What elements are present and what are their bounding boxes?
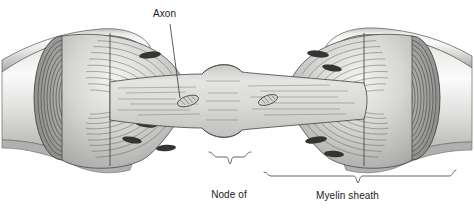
label-axon: Axon <box>153 8 176 20</box>
label-node-of-ranvier: Node of Ranvier <box>196 166 262 212</box>
label-myelin-sheath: Myelin sheath <box>316 190 379 202</box>
node-of-ranvier-bracket <box>209 152 251 164</box>
myelinated-axon-diagram: Axon Node of Ranvier Myelin sheath <box>0 0 474 212</box>
label-node-line1: Node of <box>196 189 262 201</box>
